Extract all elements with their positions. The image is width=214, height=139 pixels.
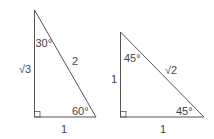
side-label-hypotenuse-2: 2 [72,55,78,67]
side-label-base-1: 1 [61,123,67,135]
side-label-sqrt2: √2 [165,64,177,76]
right-angle-marker [121,112,127,118]
triangle-45-45-90: 45° 45° 1 √2 1 [111,32,204,135]
triangle-outline [35,10,97,117]
triangle-30-60-90: 30° 60° √3 2 1 [19,10,96,135]
side-label-vertical-1: 1 [111,73,117,85]
angle-label-60: 60° [72,105,89,117]
angle-label-45-top: 45° [124,52,141,64]
side-label-base-1: 1 [160,123,166,135]
triangles-diagram: 30° 60° √3 2 1 45° 45° 1 √2 1 [0,0,214,139]
angle-label-45-bottom: 45° [176,105,193,117]
angle-label-30: 30° [36,37,53,49]
right-angle-marker [35,112,41,118]
side-label-sqrt3: √3 [19,63,31,75]
